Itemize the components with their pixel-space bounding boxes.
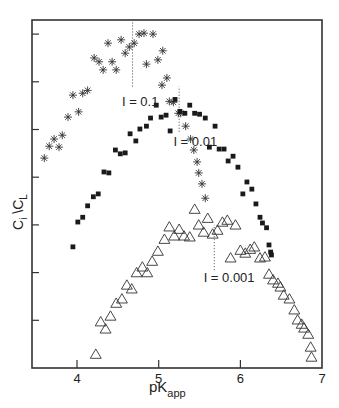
square-marker-icon [254,202,259,207]
triangle-marker-icon [152,246,163,255]
y-axis-label-c1: C [10,220,26,230]
asterisk-marker-icon [121,49,129,57]
annotation-labels: I = 0.1I = 0.01I = 0.001 [122,94,255,285]
series-label: I = 0.1 [122,94,159,109]
square-marker-icon [128,131,133,136]
asterisk-marker-icon [142,60,150,68]
triangle-marker-icon [305,342,316,351]
square-marker-icon [187,103,192,108]
triangle-marker-icon [147,256,158,265]
square-marker-icon [159,115,164,120]
x-tick-label: 6 [237,371,244,386]
square-marker-icon [245,180,250,185]
triangle-marker-icon [202,213,213,222]
x-tick-label: 4 [73,371,80,386]
series-label: I = 0.01 [173,134,217,149]
square-marker-icon [123,150,128,155]
asterisk-marker-icon [159,47,167,55]
square-marker-icon [113,148,118,153]
asterisk-marker-icon [154,56,162,64]
data-series [40,29,317,361]
triangle-marker-icon [90,349,101,358]
square-marker-icon [118,151,123,156]
series-label: I = 0.001 [204,270,255,285]
asterisk-marker-icon [130,39,138,47]
square-marker-icon [222,147,227,152]
asterisk-marker-icon [158,81,166,89]
asterisk-marker-icon [69,91,77,99]
triangle-marker-icon [184,232,195,241]
asterisk-marker-icon [64,113,72,121]
triangle-marker-icon [275,282,286,291]
asterisk-marker-icon [193,158,201,166]
x-axis-label-subscript: app [167,387,185,399]
asterisk-marker-icon [149,30,157,38]
asterisk-marker-icon [125,43,133,51]
square-marker-icon [102,170,107,175]
y-axis-label: Ci \CL [10,194,29,230]
square-marker-icon [240,191,245,196]
asterisk-marker-icon [182,122,190,130]
x-tick-label: 7 [318,371,325,386]
plot-frame [32,20,322,368]
square-marker-icon [85,203,90,208]
square-marker-icon [178,109,183,114]
x-axis-label-main: pK [149,378,167,395]
triangle-marker-icon [131,267,142,276]
asterisk-marker-icon [108,58,116,66]
asterisk-marker-icon [198,180,206,188]
square-marker-icon [267,243,272,248]
triangle-marker-icon [164,222,175,231]
triangle-marker-icon [289,305,300,314]
triangle-marker-icon [222,215,233,224]
y-axis-ticks [32,34,39,320]
asterisk-marker-icon [95,58,103,66]
scatter-chart: 4567 I = 0.1I = 0.01I = 0.001 pKapp Ci \… [0,0,339,408]
x-axis-ticks: 4567 [73,360,325,386]
square-marker-icon [91,194,96,199]
triangle-marker-icon [306,352,317,361]
y-axis-label-sep: \C [10,200,26,218]
square-marker-icon [96,191,101,196]
square-marker-icon [144,124,149,129]
square-marker-icon [236,165,241,170]
triangle-marker-icon [105,311,116,320]
asterisk-marker-icon [140,29,148,37]
square-marker-icon [203,116,208,121]
square-marker-icon [75,220,80,225]
asterisk-marker-icon [55,143,63,151]
square-marker-icon [164,113,169,118]
triangle-marker-icon [121,280,132,289]
square-marker-icon [173,97,178,102]
square-marker-icon [213,124,218,129]
asterisk-marker-icon [90,54,98,62]
square-marker-icon [71,244,76,249]
square-marker-icon [148,116,153,121]
square-marker-icon [168,129,173,134]
square-marker-icon [182,111,187,116]
square-marker-icon [264,225,269,230]
asterisk-marker-icon [45,142,53,150]
asterisk-marker-icon [104,39,112,47]
triangle-marker-icon [225,253,236,262]
asterisk-marker-icon [50,135,58,143]
x-axis-label: pKapp [149,378,186,399]
asterisk-marker-icon [99,66,107,74]
square-marker-icon [106,171,111,176]
square-marker-icon [269,253,274,258]
square-marker-icon [260,221,265,226]
triangle-marker-icon [217,217,228,226]
y-axis-label-sub-l: L [18,194,29,200]
triangle-marker-icon [142,267,153,276]
triangle-marker-icon [159,234,170,243]
triangle-marker-icon [284,294,295,303]
asterisk-marker-icon [117,36,125,44]
square-marker-icon [226,159,231,164]
square-marker-icon [80,215,85,220]
square-marker-icon [133,139,138,144]
triangle-marker-icon [249,242,260,251]
square-marker-icon [249,187,254,192]
triangle-marker-icon [189,204,200,213]
asterisk-marker-icon [195,169,203,177]
square-marker-icon [217,147,222,152]
